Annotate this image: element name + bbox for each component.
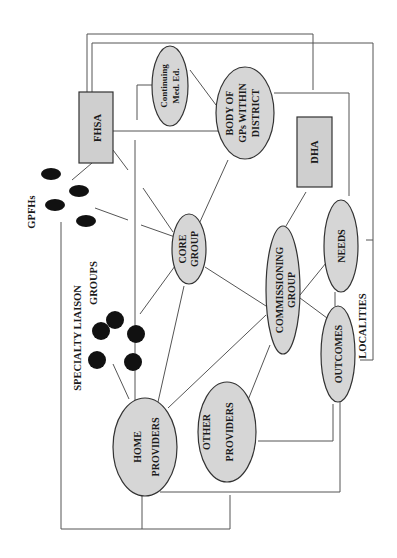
continuing-med-ed-node: Continuing Med. Ed. <box>152 46 188 126</box>
core-body-line <box>199 160 228 224</box>
liaison-dot <box>127 325 145 343</box>
gpfh-dots: GPFHs <box>26 168 96 229</box>
fhsa-node: FHSA <box>79 92 113 163</box>
body-of-gps-label-3: DISTRICT <box>250 89 261 138</box>
cme-body-line <box>190 70 216 105</box>
home-providers-label-2: PROVIDERS <box>150 417 161 476</box>
fhsa-label: FHSA <box>92 114 103 142</box>
core-group-label-2: GROUP <box>189 231 200 267</box>
commissioning-needs-line <box>300 263 326 295</box>
fhsa-core-line <box>113 150 128 170</box>
commissioning-group-label-2: GROUP <box>286 272 297 308</box>
liaison-dot <box>92 322 110 340</box>
core-home-line <box>158 286 184 402</box>
continuing-med-ed-ellipse <box>152 46 188 126</box>
fhsa-gpfh-line <box>72 163 92 180</box>
liaison-core-line <box>140 266 175 314</box>
core-group-label-1: CORE <box>177 234 188 263</box>
gpfhs-label: GPFHs <box>26 195 37 228</box>
gpfh-dot <box>41 168 61 180</box>
cme-tick-line <box>137 85 153 120</box>
other-providers-node: OTHER PROVIDERS <box>198 382 256 482</box>
commissioning-group-label-1: COMMISSIONING <box>274 246 285 333</box>
gpfh-dot <box>69 185 89 197</box>
home-providers-node: HOME PROVIDERS <box>113 398 177 496</box>
home-providers-label-1: HOME <box>132 431 143 463</box>
organisation-diagram: FHSA DHA Continuing Med. Ed. BODY OF GPs… <box>0 0 397 558</box>
other-providers-label-2: PROVIDERS <box>224 402 235 461</box>
specialty-liaison-label: SPECIALTY LIAISON <box>72 285 83 391</box>
body-of-gps-label-2: GPs WITHIN <box>237 82 248 142</box>
dha-label: DHA <box>309 140 320 164</box>
gpfh-dot <box>76 215 96 227</box>
commissioning-outcomes-line <box>300 298 327 318</box>
specialty-liaison-dots: SPECIALTY LIAISON GROUPS <box>72 261 145 391</box>
core-group-node: CORE GROUP <box>172 214 206 284</box>
needs-node: NEEDS <box>324 200 358 292</box>
dha-node: DHA <box>297 117 332 187</box>
commissioning-dha-line <box>286 192 306 226</box>
outcomes-node: OUTCOMES <box>321 306 355 402</box>
other-providers-label-1: OTHER <box>201 413 212 450</box>
body-of-gps-label-1: BODY OF <box>224 91 235 136</box>
liaison-dot <box>124 353 142 371</box>
needs-label: NEEDS <box>336 229 347 263</box>
commissioning-group-node: COMMISSIONING GROUP <box>266 226 300 354</box>
gpfh-dot <box>45 199 65 211</box>
liaison-home-line <box>113 364 129 399</box>
gpfh-core-mid-line <box>95 208 128 220</box>
continuing-med-ed-label-1: Continuing <box>159 64 169 108</box>
continuing-med-ed-label-2: Med. Ed. <box>171 68 181 103</box>
core-commissioning-line <box>205 267 266 306</box>
body-of-gps-node: BODY OF GPs WITHIN DISTRICT <box>216 67 274 159</box>
other-outcomes-bracket-line <box>258 404 333 441</box>
liaison-dot <box>106 311 124 329</box>
outcomes-label: OUTCOMES <box>333 324 344 383</box>
localities-label: LOCALITIES <box>357 293 368 359</box>
liaison-dot <box>88 351 106 369</box>
commissioning-other-line <box>248 345 270 400</box>
home-providers-ellipse <box>113 398 177 496</box>
groups-label: GROUPS <box>88 261 99 305</box>
gpfh-core-upper-line <box>143 188 173 232</box>
